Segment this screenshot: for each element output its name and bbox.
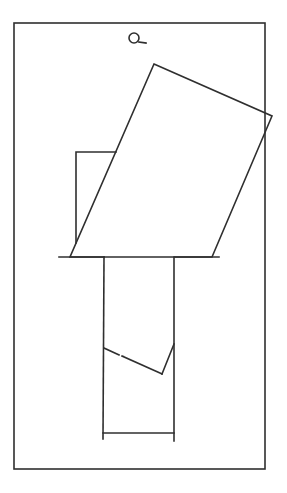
zigzag-line: [104, 344, 174, 374]
rotated-rectangle: [70, 64, 272, 257]
outer-frame: [14, 23, 265, 469]
diagram-canvas: [0, 0, 287, 493]
magnifier-icon: [129, 33, 146, 43]
